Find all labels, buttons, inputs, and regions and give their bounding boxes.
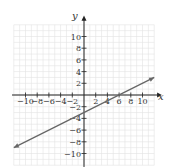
y-tick-label: −2 [69,103,81,112]
x-tick-label: −8 [31,97,43,106]
x-tick-label: −4 [55,97,67,106]
x-tick-label: −6 [43,97,55,106]
x-tick-label: 6 [117,97,122,106]
coordinate-plane: −10−8−6−4−2246810108642−2−4−6−8−10 x y [0,0,178,168]
x-tick-label: 2 [93,97,98,106]
y-tick-label: −8 [69,138,81,147]
y-tick-label: −10 [64,150,81,159]
x-axis-label: x [158,91,164,102]
y-tick-label: 10 [71,33,81,42]
y-axis-arrow-icon [82,15,87,20]
y-tick-label: 4 [76,68,81,77]
y-tick-label: 2 [76,79,81,88]
y-tick-label: 6 [76,56,81,65]
axes [12,15,162,167]
y-tick-label: 8 [76,44,81,53]
y-axis-label: y [71,10,78,21]
y-tick-label: −6 [69,126,81,135]
x-tick-label: 10 [137,97,147,106]
x-tick-label: 8 [128,97,133,106]
